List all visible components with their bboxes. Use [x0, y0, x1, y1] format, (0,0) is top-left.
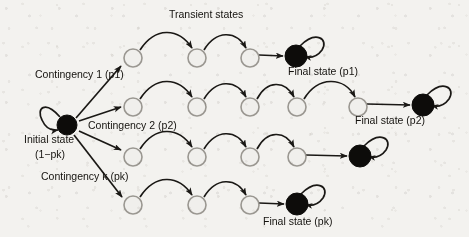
label-final-state-pk: Final state (pk)	[263, 215, 332, 227]
node-transient-bk-1[interactable]	[124, 196, 142, 214]
label-final-state-pk-prefix: Final state (p	[263, 215, 324, 227]
label-initial-state-line2: (1−pk)	[35, 148, 65, 160]
node-transient-bk-3[interactable]	[241, 196, 259, 214]
label-contingency-2: Contingency 2 (p2)	[88, 119, 177, 131]
label-transient-states: Transient states	[169, 8, 243, 20]
node-transient-b2-4[interactable]	[288, 98, 306, 116]
label-initial-state-line1: Initial state	[24, 133, 74, 145]
node-transient-b3-4[interactable]	[288, 148, 306, 166]
label-contingency-k-suffix: (pk)	[108, 170, 129, 182]
transition-edges-branch-k	[140, 179, 284, 204]
node-final-state-b2[interactable]	[412, 94, 434, 116]
branch-edge-initial-to-k	[74, 135, 122, 197]
node-final-state-bk[interactable]	[286, 193, 308, 215]
branch-edge-initial-to-3	[79, 131, 121, 150]
node-transient-b2-3[interactable]	[241, 98, 259, 116]
node-final-state-b3[interactable]	[349, 145, 371, 167]
diagram-labels: Transient states Contingency 1 (p1) Cont…	[24, 8, 425, 227]
node-final-state-b1[interactable]	[285, 45, 307, 67]
node-transient-b2-1[interactable]	[124, 98, 142, 116]
state-transition-diagram: Transient states Contingency 1 (p1) Cont…	[0, 0, 469, 237]
initial-state-prob-suffix: )	[62, 148, 66, 160]
transition-edges-branch-2	[140, 81, 410, 105]
node-transient-b3-3[interactable]	[241, 148, 259, 166]
transition-edges-branch-1	[140, 32, 283, 56]
node-initial-state[interactable]	[57, 115, 77, 135]
node-transient-b2-2[interactable]	[188, 98, 206, 116]
label-final-state-p2: Final state (p2)	[355, 114, 425, 126]
label-final-state-p1: Final state (p1)	[288, 65, 358, 77]
label-contingency-k-prefix: Contingency	[41, 170, 102, 182]
node-transient-b3-1[interactable]	[124, 148, 142, 166]
node-transient-b3-2[interactable]	[188, 148, 206, 166]
node-transient-b1-1[interactable]	[124, 49, 142, 67]
node-transient-b1-2[interactable]	[188, 49, 206, 67]
diagram-canvas: Transient states Contingency 1 (p1) Cont…	[0, 0, 469, 237]
label-final-state-pk-suffix: )	[329, 215, 333, 227]
node-transient-bk-2[interactable]	[188, 196, 206, 214]
label-contingency-1: Contingency 1 (p1)	[35, 68, 124, 80]
label-contingency-k: Contingency k (pk)	[41, 170, 129, 182]
initial-state-prob-prefix: (1	[35, 148, 44, 160]
node-transient-b1-3[interactable]	[241, 49, 259, 67]
